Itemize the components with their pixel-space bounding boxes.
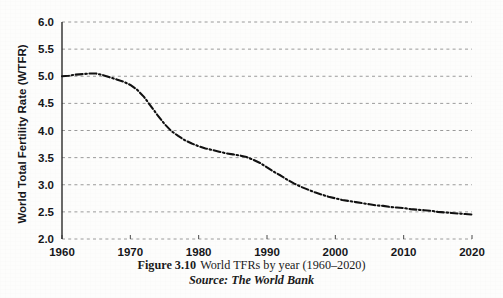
y-tick-label: 2.0 — [38, 233, 54, 245]
x-tick-label: 2020 — [459, 246, 485, 258]
figure-caption-block: Figure 3.10World TFRs by year (1960–2020… — [0, 258, 503, 288]
y-tick-label: 5.0 — [38, 70, 54, 82]
x-tick-label: 1960 — [49, 246, 75, 258]
line-chart: World Total Fertility Rate (WTFR) 2.02.5… — [0, 0, 503, 298]
y-tick-label: 4.0 — [38, 125, 54, 137]
y-tick-label: 6.0 — [38, 16, 54, 28]
x-tick-label: 1990 — [254, 246, 280, 258]
y-tick-label: 3.0 — [38, 179, 54, 191]
x-tick-label: 2010 — [391, 246, 417, 258]
y-tick-label: 2.5 — [38, 206, 55, 218]
x-axis-tick-labels: 1960197019801990200020102020 — [49, 246, 485, 258]
y-axis-tick-labels: 2.02.53.03.54.04.55.05.56.0 — [38, 16, 55, 245]
gridlines — [62, 22, 472, 239]
x-axis-tick-marks — [62, 235, 472, 239]
figure-3-10: World Total Fertility Rate (WTFR) 2.02.5… — [0, 0, 503, 298]
y-tick-label: 3.5 — [38, 152, 55, 164]
y-tick-label: 4.5 — [38, 97, 55, 109]
figure-caption-text: World TFRs by year (1960–2020) — [196, 258, 365, 272]
y-axis-title: World Total Fertility Rate (WTFR) — [16, 44, 28, 223]
figure-number: Figure 3.10 — [137, 258, 196, 272]
y-tick-label: 5.5 — [38, 43, 55, 55]
x-tick-label: 1970 — [118, 246, 144, 258]
figure-source: Source: The World Bank — [0, 273, 503, 288]
x-tick-label: 1980 — [186, 246, 212, 258]
figure-caption: Figure 3.10World TFRs by year (1960–2020… — [0, 258, 503, 273]
x-tick-label: 2000 — [323, 246, 349, 258]
wtfr-data-line — [62, 74, 472, 215]
